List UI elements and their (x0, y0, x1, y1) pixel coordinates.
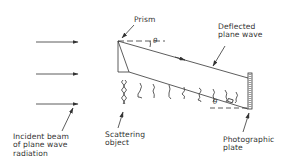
scattering-object-label: Scattering object (105, 131, 145, 148)
scattering-object-icon (122, 80, 127, 104)
incident-beam-arrows (36, 42, 78, 104)
deflected-wave-label: Deflected plane wave (218, 23, 263, 40)
photographic-plate-label: Photographic plate (223, 136, 274, 153)
hologram-diagram: Prism Deflected plane wave Incident beam… (0, 0, 287, 163)
prism-label: Prism (134, 16, 156, 24)
prism-icon (118, 41, 129, 72)
theta-top-label: θ (153, 37, 157, 45)
incident-beam-label: Incident beam of plane wave radiation (13, 133, 69, 158)
theta-bottom-label: θ (213, 98, 217, 106)
photographic-plate-icon (248, 73, 252, 109)
